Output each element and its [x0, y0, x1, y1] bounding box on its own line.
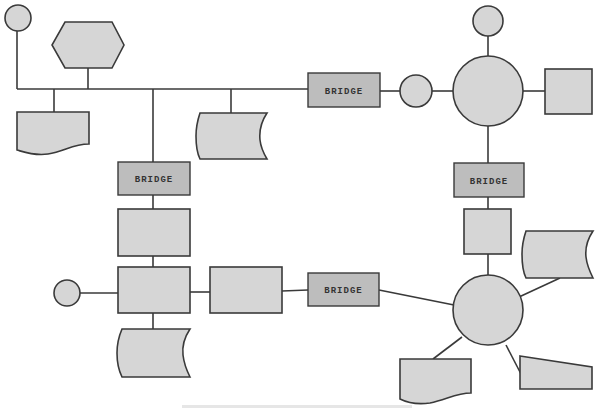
- connector: [433, 337, 462, 359]
- document-node[interactable]: [400, 359, 471, 404]
- bridge-label: BRIDGE: [135, 175, 173, 185]
- bridge-left[interactable]: BRIDGE: [118, 162, 190, 195]
- hub-circle-top[interactable]: [453, 56, 523, 126]
- manual-input-node[interactable]: [520, 356, 592, 389]
- bridge-bottom[interactable]: BRIDGE: [308, 273, 379, 306]
- small-circle-node[interactable]: [400, 75, 432, 107]
- connector: [282, 290, 308, 291]
- hexagon-node[interactable]: [52, 22, 124, 68]
- connector: [379, 290, 454, 305]
- box-node[interactable]: [210, 267, 282, 313]
- document-node[interactable]: [17, 112, 89, 155]
- box-node[interactable]: [118, 267, 190, 313]
- bridge-right[interactable]: BRIDGE: [454, 163, 524, 197]
- figure-caption: [182, 405, 412, 408]
- card-node[interactable]: [196, 113, 267, 159]
- bridge-label: BRIDGE: [470, 177, 508, 187]
- card-node[interactable]: [522, 231, 593, 278]
- hub-circle-bottom[interactable]: [453, 275, 523, 345]
- connector: [519, 278, 560, 297]
- terminal-node-circle[interactable]: [5, 5, 31, 31]
- terminal-node-circle[interactable]: [54, 280, 80, 306]
- bridge-label: BRIDGE: [324, 286, 362, 296]
- network-diagram: BRIDGE BRIDGE BRIDGE BRIDGE: [0, 0, 598, 410]
- card-node[interactable]: [117, 329, 190, 377]
- bridge-label: BRIDGE: [325, 87, 363, 97]
- top-circle-node[interactable]: [473, 6, 503, 36]
- connector: [506, 345, 521, 374]
- bridge-top[interactable]: BRIDGE: [308, 73, 380, 107]
- square-node[interactable]: [464, 209, 511, 254]
- box-node[interactable]: [118, 209, 190, 256]
- square-node[interactable]: [545, 69, 592, 114]
